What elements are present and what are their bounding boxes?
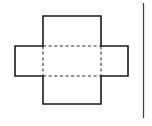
- figure-canvas: [0, 0, 152, 126]
- net-diagram-svg: [0, 0, 152, 126]
- fold-lines-group: [43, 46, 101, 76]
- net-outline-path: [15, 16, 128, 104]
